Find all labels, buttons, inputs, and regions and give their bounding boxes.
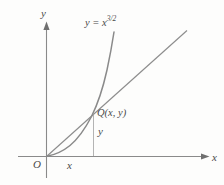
math-figure: y x O x y = x3/2 Q(x, y) y bbox=[0, 0, 224, 185]
curve-equation-base: y = x bbox=[85, 17, 107, 28]
straight-line-through-origin bbox=[47, 31, 187, 157]
x-axis-label: x bbox=[212, 152, 217, 163]
y-axis-label: y bbox=[41, 8, 46, 19]
curve-equation-exponent: 3/2 bbox=[107, 14, 117, 23]
x-tick-label: x bbox=[67, 160, 72, 171]
origin-label: O bbox=[33, 159, 41, 170]
power-curve bbox=[47, 32, 114, 156]
vertical-segment-label: y bbox=[98, 126, 103, 137]
curve-equation-label: y = x3/2 bbox=[85, 15, 116, 28]
point-q-label: Q(x, y) bbox=[97, 108, 126, 119]
